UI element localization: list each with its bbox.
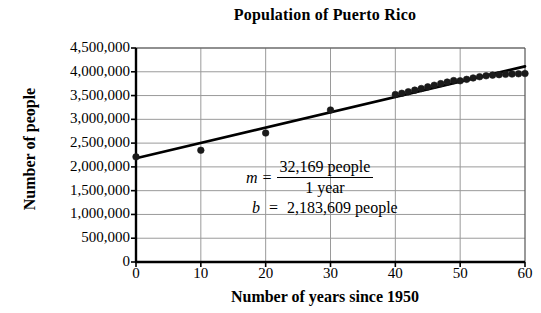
- chart-figure: Population of Puerto Rico Number of peop…: [0, 0, 541, 313]
- intercept-annotation: b = 2,183,609 people: [252, 199, 398, 217]
- slope-annotation: m = 32,169 people 1 year: [246, 158, 373, 197]
- data-point: [437, 80, 444, 87]
- data-point: [327, 107, 334, 114]
- data-point: [411, 87, 418, 94]
- data-point: [133, 154, 140, 161]
- data-point: [496, 71, 503, 78]
- data-point: [405, 88, 412, 95]
- data-point: [198, 147, 205, 154]
- data-point: [470, 75, 477, 82]
- data-point: [457, 77, 464, 84]
- intercept-equals: =: [268, 199, 283, 216]
- plot-area: [0, 0, 541, 313]
- data-point: [262, 130, 269, 137]
- data-point: [502, 71, 509, 78]
- slope-variable: m: [246, 169, 262, 187]
- data-point: [522, 70, 529, 77]
- data-point: [450, 77, 457, 84]
- data-point: [418, 85, 425, 92]
- data-point: [489, 72, 496, 79]
- slope-numerator: 32,169 people: [277, 158, 374, 178]
- slope-equals: =: [262, 169, 277, 187]
- intercept-variable: b: [252, 199, 264, 216]
- data-point: [392, 91, 399, 98]
- data-point: [476, 73, 483, 80]
- data-point: [444, 79, 451, 86]
- data-point: [399, 90, 406, 97]
- slope-fraction: 32,169 people 1 year: [277, 158, 374, 197]
- data-point: [463, 76, 470, 83]
- intercept-value: 2,183,609 people: [287, 199, 398, 216]
- data-point: [509, 71, 516, 78]
- data-point: [431, 82, 438, 89]
- data-point: [424, 84, 431, 91]
- data-point: [515, 70, 522, 77]
- data-point: [483, 72, 490, 79]
- slope-denominator: 1 year: [277, 178, 374, 197]
